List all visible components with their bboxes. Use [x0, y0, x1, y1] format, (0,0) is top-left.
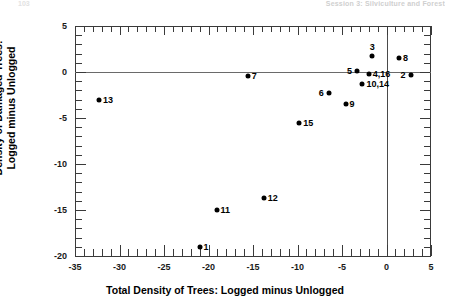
y-tick--17: [76, 228, 82, 229]
x-tick-top--6: [333, 26, 334, 32]
x-tick-label--35: -35: [68, 262, 81, 272]
x-tick-top--16: [244, 26, 245, 32]
y-tick--5: [76, 118, 86, 119]
data-point-2: [408, 72, 413, 77]
x-tick-top--27: [146, 26, 147, 32]
x-tick--22: [191, 249, 192, 256]
y-tick-right--20: [420, 256, 430, 257]
y-tick--2: [76, 90, 82, 91]
y-tick-right-3: [424, 44, 430, 45]
y-tick-right--11: [424, 173, 430, 174]
x-tick--28: [137, 249, 138, 256]
x-tick--26: [155, 249, 156, 256]
data-point-label-6: 6: [319, 88, 324, 98]
y-tick-label--20: -20: [54, 251, 67, 261]
data-point-12: [261, 196, 266, 201]
data-point-10-14: [360, 81, 365, 86]
x-tick--12: [280, 249, 281, 256]
data-point-label-9: 9: [350, 99, 355, 109]
y-tick-right--13: [424, 192, 430, 193]
y-tick--12: [76, 182, 82, 183]
x-tick--5: [342, 245, 343, 256]
y-tick-right--7: [424, 136, 430, 137]
x-tick-top--10: [298, 26, 299, 35]
data-point-3: [370, 54, 375, 59]
y-tick-right--3: [424, 100, 430, 101]
data-point-label-1: 1: [204, 242, 209, 252]
y-tick-right--10: [420, 164, 430, 165]
y-tick-label-5: 5: [62, 21, 67, 31]
x-tick-0: [387, 245, 388, 256]
data-point-label-4-16: 4,16: [373, 69, 391, 79]
data-point-4-16: [366, 71, 371, 76]
x-tick-label--10: -10: [291, 262, 304, 272]
y-tick-right--4: [424, 109, 430, 110]
x-tick-top-3: [413, 26, 414, 32]
axis-right-spine: [430, 26, 431, 256]
x-tick-label--5: -5: [338, 262, 346, 272]
x-tick-4: [422, 249, 423, 256]
y-tick-right--12: [424, 182, 430, 183]
x-tick-label-5: 5: [428, 262, 433, 272]
y-tick--9: [76, 155, 82, 156]
x-tick-top-0: [387, 26, 388, 35]
x-tick-top--15: [253, 26, 254, 35]
data-point-7: [245, 73, 250, 78]
data-point-8: [396, 56, 401, 61]
data-point-label-3: 3: [370, 42, 375, 52]
x-tick--24: [173, 249, 174, 256]
y-tick-right--19: [424, 247, 430, 248]
x-tick-top--21: [200, 26, 201, 32]
x-tick-top--4: [351, 26, 352, 32]
y-tick-right--1: [424, 81, 430, 82]
x-tick-top--17: [235, 26, 236, 32]
y-tick-right--17: [424, 228, 430, 229]
x-tick-label--30: -30: [113, 262, 126, 272]
x-tick--4: [351, 249, 352, 256]
axis-bottom-spine: [75, 256, 431, 257]
data-point-1: [197, 244, 202, 249]
y-tick-right--8: [424, 146, 430, 147]
x-tick-top--20: [209, 26, 210, 35]
data-point-label-12: 12: [268, 193, 278, 203]
y-tick--20: [76, 256, 86, 257]
y-tick-right--6: [424, 127, 430, 128]
x-tick-3: [413, 249, 414, 256]
y-axis-title: Density of Damaged Trees: Logged minus U…: [0, 18, 22, 198]
plot-area: -35-30-25-20-15-10-50550-5-10-15-20 1311…: [75, 26, 431, 256]
y-tick--13: [76, 192, 82, 193]
page-number: 103: [18, 0, 30, 7]
x-tick-top--23: [182, 26, 183, 32]
y-tick-3: [76, 44, 82, 45]
x-axis-title: Total Density of Trees: Logged minus Unl…: [0, 284, 450, 296]
data-point-label-13: 13: [103, 95, 113, 105]
x-tick--14: [262, 249, 263, 256]
x-tick--18: [226, 249, 227, 256]
x-tick-top--22: [191, 26, 192, 32]
x-tick--19: [217, 249, 218, 256]
axis-left-spine: [75, 26, 76, 256]
x-tick-top--2: [369, 26, 370, 32]
y-tick--11: [76, 173, 82, 174]
data-point-label-11: 11: [221, 205, 231, 215]
x-tick-top--7: [324, 26, 325, 32]
y-tick-right--9: [424, 155, 430, 156]
y-tick-right--14: [424, 201, 430, 202]
x-tick-top-1: [395, 26, 396, 32]
x-tick--27: [146, 249, 147, 256]
x-tick-top-2: [404, 26, 405, 32]
y-axis-title-line2: Logged minus Unlogged: [5, 46, 18, 169]
x-tick-top--12: [280, 26, 281, 32]
x-tick--20: [209, 245, 210, 256]
y-tick--18: [76, 238, 82, 239]
reference-line-x0: [387, 26, 388, 256]
x-tick-label--25: -25: [157, 262, 170, 272]
x-tick--2: [369, 249, 370, 256]
x-tick--33: [93, 249, 94, 256]
y-tick--3: [76, 100, 82, 101]
y-tick-right--15: [420, 210, 430, 211]
x-tick-top--35: [75, 26, 76, 35]
x-tick-top--28: [137, 26, 138, 32]
x-tick--13: [271, 249, 272, 256]
data-point-5: [355, 69, 360, 74]
